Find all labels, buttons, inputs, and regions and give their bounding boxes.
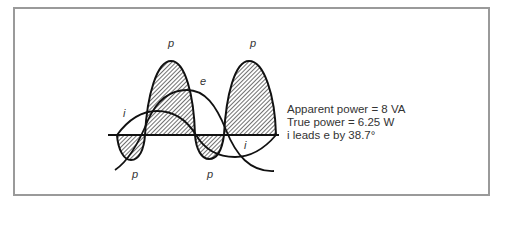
apparent-power-text: Apparent power = 8 VA <box>287 103 405 116</box>
label-e: e <box>200 76 206 87</box>
label-p-top-right: p <box>250 38 256 49</box>
label-i-left: i <box>123 108 125 119</box>
label-p-bottom-mid: p <box>207 169 213 180</box>
power-curve-p <box>117 61 276 160</box>
power-negative-lobe-1 <box>117 135 145 160</box>
label-p-top-left: p <box>168 38 174 49</box>
phase-text: i leads e by 38.7° <box>287 129 405 142</box>
power-info: Apparent power = 8 VA True power = 6.25 … <box>287 103 405 142</box>
label-p-bottom-left: p <box>132 169 138 180</box>
true-power-text: True power = 6.25 W <box>287 116 405 129</box>
power-positive-lobe-2 <box>224 61 276 135</box>
power-waveform-diagram <box>0 0 507 232</box>
label-i-right: i <box>244 140 246 151</box>
